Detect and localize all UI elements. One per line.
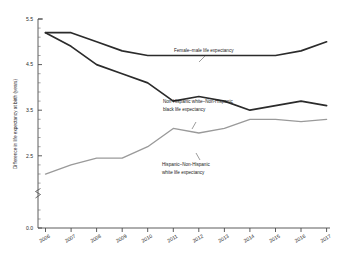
y-tick-label-5-5: 5.5 bbox=[26, 16, 33, 22]
annotation-female-male: Female–male life expectancy bbox=[174, 48, 234, 53]
chart-figure: 5.5 4.5 3.5 2.5 0.0 bbox=[0, 0, 342, 260]
x-tick-label-2010: 2010 bbox=[140, 233, 153, 244]
line-chart: 5.5 4.5 3.5 2.5 0.0 bbox=[0, 0, 342, 260]
y-axis-break-icon bbox=[36, 189, 41, 199]
y-tick-label-0-0: 0.0 bbox=[26, 225, 33, 231]
annotation-white-black: Non-Hispanic white–Non-Hispanic black li… bbox=[163, 99, 233, 112]
y-ticks-group: 5.5 4.5 3.5 2.5 0.0 bbox=[26, 16, 42, 231]
y-tick-label-3-5: 3.5 bbox=[26, 107, 33, 113]
x-tick-label-2012: 2012 bbox=[191, 233, 204, 244]
x-ticks-group: 2006 2007 2008 2009 2010 2011 2012 2013 … bbox=[38, 228, 332, 244]
leader-white-black bbox=[192, 122, 196, 129]
x-tick-label-2014: 2014 bbox=[242, 233, 255, 244]
x-tick-label-2017: 2017 bbox=[319, 233, 332, 244]
x-tick-label-2006: 2006 bbox=[38, 233, 51, 244]
annotation-white-black-line1: Non-Hispanic white–Non-Hispanic bbox=[163, 99, 233, 104]
annotation-white-black-line2: black life expectancy bbox=[163, 107, 206, 112]
leader-female-male bbox=[199, 56, 205, 62]
y-axis-title: Difference in life expectancy at birth (… bbox=[13, 79, 18, 169]
x-tick-label-2007: 2007 bbox=[64, 233, 77, 244]
annotation-hispanic-white: Hispanic–Non-Hispanic white life expecta… bbox=[162, 162, 210, 175]
annotation-hispanic-white-line1: Hispanic–Non-Hispanic bbox=[162, 162, 210, 167]
annotation-female-male-line1: Female–male life expectancy bbox=[174, 48, 234, 53]
x-tick-label-2009: 2009 bbox=[115, 233, 128, 244]
y-tick-label-2-5: 2.5 bbox=[26, 153, 33, 159]
y-tick-label-4-5: 4.5 bbox=[26, 61, 33, 67]
leader-hispanic-white bbox=[196, 153, 200, 160]
x-tick-label-2013: 2013 bbox=[217, 233, 230, 244]
annotation-hispanic-white-line2: white life expectancy bbox=[162, 170, 205, 175]
x-tick-label-2016: 2016 bbox=[294, 233, 307, 244]
x-tick-label-2011: 2011 bbox=[166, 233, 179, 244]
x-tick-label-2015: 2015 bbox=[268, 233, 281, 244]
x-tick-label-2008: 2008 bbox=[89, 233, 102, 244]
